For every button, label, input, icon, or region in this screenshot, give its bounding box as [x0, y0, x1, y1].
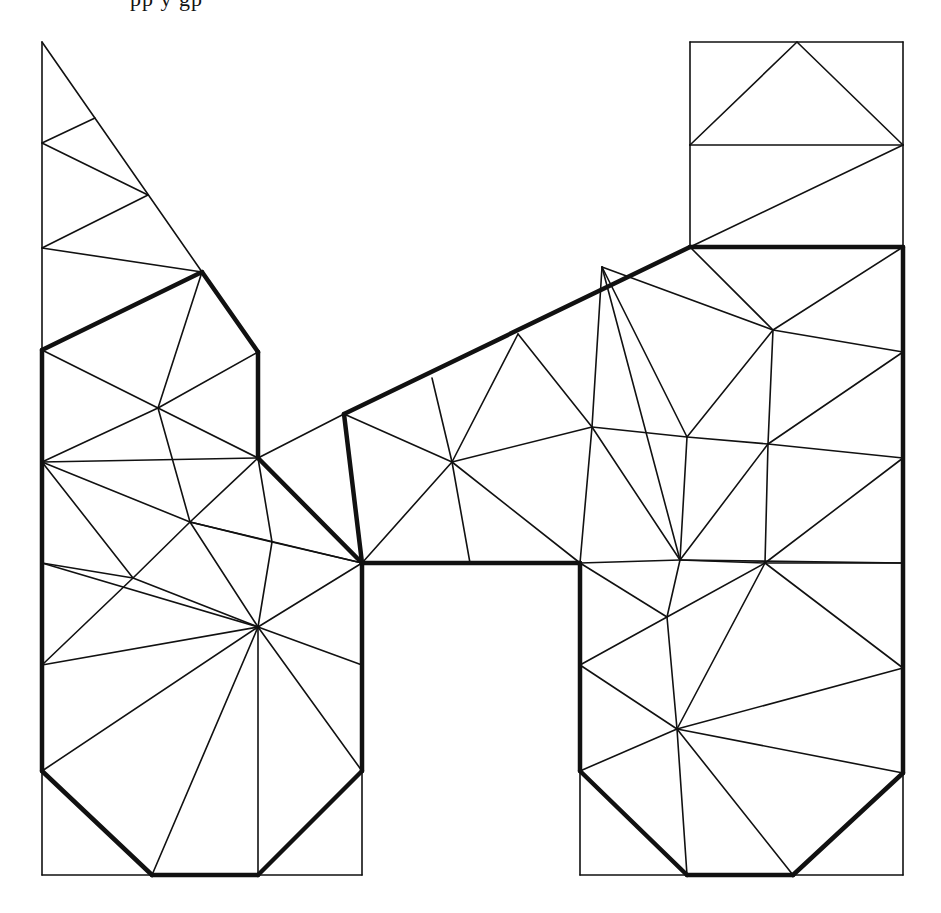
mesh-edge: [680, 437, 687, 560]
mesh-edge: [580, 563, 667, 617]
mesh-edge: [580, 729, 677, 771]
mesh-edge: [687, 330, 773, 437]
mesh-edge: [42, 248, 202, 272]
mesh-edge: [773, 330, 903, 352]
boundary-edge: [202, 272, 258, 352]
boundary-edge: [258, 771, 362, 875]
mesh-edge: [344, 414, 452, 462]
mesh-edge: [362, 462, 452, 563]
boundary-edge: [580, 771, 687, 875]
mesh-edge: [158, 408, 258, 458]
mesh-edge: [42, 42, 202, 272]
mesh-edge: [773, 247, 903, 330]
mesh-edge: [690, 42, 797, 145]
mesh-edge: [42, 118, 95, 143]
mesh-edge: [677, 668, 903, 729]
mesh-edge: [690, 145, 903, 247]
mesh-edge: [133, 578, 258, 627]
boundary-edge: [344, 414, 362, 563]
mesh-edge: [768, 352, 903, 444]
mesh-edge: [602, 267, 680, 560]
mesh-edge: [452, 462, 470, 563]
mesh-edge: [677, 729, 793, 875]
thin-mesh-edges: [42, 42, 903, 875]
mesh-edge: [432, 378, 452, 462]
mesh-edge: [42, 143, 148, 195]
mesh-edge: [42, 195, 148, 248]
mesh-edge: [667, 560, 680, 617]
mesh-edge: [768, 444, 903, 458]
boundary-edge: [42, 771, 152, 875]
mesh-edge: [580, 427, 592, 563]
triangulated-mesh-diagram: [0, 0, 941, 913]
mesh-edge: [452, 427, 592, 462]
mesh-edge: [518, 334, 592, 427]
mesh-edge: [592, 427, 680, 560]
mesh-edge: [42, 462, 133, 578]
mesh-edge: [680, 444, 768, 560]
mesh-edge: [452, 334, 518, 462]
boundary-edge: [42, 272, 202, 350]
mesh-edge: [765, 458, 903, 563]
mesh-edge: [677, 729, 903, 773]
mesh-edge: [42, 462, 190, 522]
mesh-edge: [152, 627, 258, 875]
mesh-edge: [42, 563, 258, 627]
mesh-edge: [797, 42, 903, 145]
mesh-edge: [42, 408, 158, 462]
mesh-edge: [452, 462, 580, 563]
mesh-edge: [258, 563, 362, 627]
mesh-edge: [580, 617, 667, 665]
mesh-edge: [42, 458, 258, 462]
mesh-edge: [765, 444, 768, 563]
mesh-edge: [687, 437, 768, 444]
mesh-edge: [42, 627, 258, 771]
mesh-edge: [677, 729, 687, 875]
boundary-edge: [793, 773, 903, 875]
mesh-edge: [258, 414, 344, 458]
mesh-edge: [42, 350, 158, 408]
mesh-edge: [190, 458, 258, 522]
mesh-edge: [158, 408, 190, 522]
boundary-edge: [344, 247, 690, 414]
mesh-edge: [190, 522, 258, 627]
mesh-edge: [42, 627, 258, 665]
mesh-edge: [258, 542, 272, 627]
boundary-edge: [258, 458, 362, 563]
mesh-edge: [690, 247, 773, 330]
mesh-edge: [580, 560, 680, 563]
mesh-edge: [765, 563, 903, 668]
mesh-edge: [258, 627, 362, 771]
mesh-edge: [580, 665, 677, 729]
mesh-edge: [133, 522, 190, 578]
mesh-edge: [592, 427, 687, 437]
mesh-edge: [768, 330, 773, 444]
mesh-edge: [667, 617, 677, 729]
mesh-edge: [602, 267, 687, 437]
mesh-edge: [258, 627, 362, 665]
